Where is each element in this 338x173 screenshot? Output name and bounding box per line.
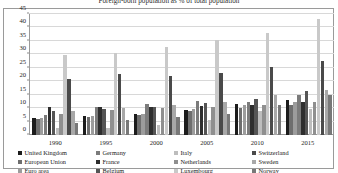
bar (176, 117, 179, 135)
bar (239, 108, 242, 135)
legend-swatch-icon (96, 151, 100, 155)
bar (102, 109, 105, 135)
y-tick-label: 0 (23, 125, 26, 132)
y-tick-mark (27, 93, 29, 94)
bar (161, 108, 164, 135)
bar (75, 123, 78, 135)
bar (317, 19, 320, 135)
bar (106, 128, 109, 135)
bar (235, 104, 238, 135)
y-tick-label: 15 (19, 84, 26, 91)
bar (59, 114, 62, 135)
bar (301, 102, 304, 135)
legend-item[interactable]: Norway (252, 166, 330, 173)
bar (36, 119, 39, 135)
bar (95, 107, 98, 135)
y-tick-mark (27, 66, 29, 67)
bar (52, 111, 55, 135)
legend-label: Norway (259, 166, 279, 173)
legend-label: Switzerland (259, 148, 289, 157)
bar (149, 107, 152, 135)
y-tick-label: 5 (23, 111, 26, 118)
y-tick-label: 10 (19, 98, 26, 105)
legend-item[interactable]: France (96, 157, 174, 166)
legend-label: Netherlands (181, 157, 211, 166)
bar-group (131, 14, 182, 135)
y-tick-label: 20 (19, 71, 26, 78)
bar (254, 99, 257, 135)
bar (114, 53, 117, 135)
bar (169, 76, 172, 135)
y-tick-mark (27, 134, 29, 135)
legend-item[interactable]: Italy (174, 148, 252, 157)
legend-item[interactable]: United Kingdom (18, 148, 96, 157)
y-tick-mark (27, 39, 29, 40)
legend-label: United Kingdom (25, 148, 68, 157)
bar (145, 104, 148, 135)
bar-groups (30, 14, 334, 135)
bar (141, 114, 144, 136)
bar (219, 73, 222, 135)
bar (196, 101, 199, 135)
bar (286, 100, 289, 135)
y-tick-mark (27, 120, 29, 121)
chart-frame: 051015202530354045 199019952000200520102… (3, 8, 334, 169)
x-axis-labels: 199019952000200520102015 (30, 137, 333, 148)
chart-figure: Foreign-born population as % of total po… (0, 0, 338, 173)
bar (91, 116, 94, 135)
bar (325, 90, 328, 135)
plot-inner: 051015202530354045 (29, 14, 334, 135)
legend-item[interactable]: Germany (96, 148, 174, 157)
legend-label: Italy (181, 148, 193, 157)
x-tick-label: 1990 (30, 137, 81, 148)
x-tick-label: 2000 (131, 137, 182, 148)
bar-group (283, 14, 334, 135)
bar (208, 120, 211, 135)
bar (328, 95, 331, 135)
bar (153, 107, 156, 135)
bar (258, 111, 261, 135)
bar (184, 110, 187, 135)
y-tick-label: 35 (19, 30, 26, 37)
legend-swatch-icon (174, 160, 178, 164)
legend-label: Sweden (259, 157, 279, 166)
bar (67, 79, 70, 135)
bar (172, 105, 175, 135)
bar (305, 91, 308, 135)
legend-item[interactable]: Belgium (96, 166, 174, 173)
bar (215, 40, 218, 135)
y-tick-mark (27, 26, 29, 27)
legend-swatch-icon (252, 151, 256, 155)
chart-title: Foreign-born population as % of total po… (0, 0, 338, 6)
legend-item[interactable]: Sweden (252, 157, 330, 166)
bar (227, 114, 230, 135)
bar (289, 105, 292, 135)
bar (56, 128, 59, 135)
legend-item[interactable]: Luxembourg (174, 166, 252, 173)
bar (266, 33, 269, 135)
bar (40, 118, 43, 135)
legend-label: France (103, 157, 120, 166)
bar-group (81, 14, 132, 135)
legend-item[interactable]: Netherlands (174, 157, 252, 166)
bar (110, 110, 113, 135)
bar (278, 105, 281, 135)
bar (157, 125, 160, 135)
bar (98, 107, 101, 135)
bar (165, 47, 168, 135)
bar (122, 108, 125, 135)
bar (48, 107, 51, 135)
bar-group (233, 14, 284, 135)
legend-label: Luxembourg (181, 166, 213, 173)
bar (297, 95, 300, 135)
legend-item[interactable]: Euro area (18, 166, 96, 173)
x-tick-label: 2015 (283, 137, 334, 148)
legend-item[interactable]: European Union (18, 157, 96, 166)
bar (126, 120, 129, 135)
plot-area: 051015202530354045 (29, 14, 334, 135)
x-tick-label: 2005 (182, 137, 233, 148)
bar (63, 55, 66, 135)
legend-item[interactable]: Switzerland (252, 148, 330, 157)
bar (262, 105, 265, 135)
bar (134, 114, 137, 135)
